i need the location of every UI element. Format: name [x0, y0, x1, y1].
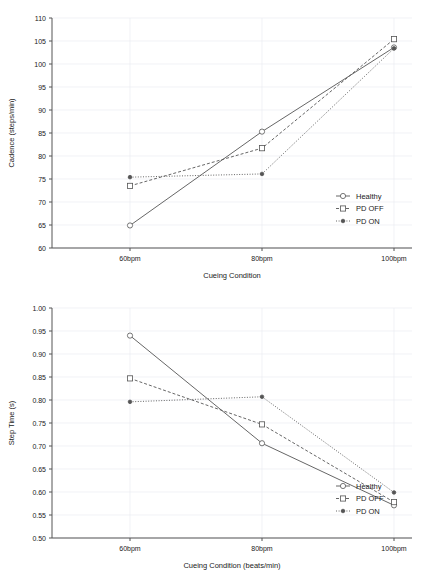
legend-label-1: PD OFF — [356, 204, 384, 213]
legend-label-2: PD ON — [356, 507, 380, 516]
data-point-filled-2 — [260, 395, 264, 399]
data-point-circle-legend-0 — [340, 193, 345, 198]
data-point-filled-2 — [128, 175, 132, 179]
x-tick-label-2: 100bpm — [381, 545, 406, 553]
data-point-circle-0 — [259, 441, 264, 446]
steptime-chart: 0.500.550.600.650.700.750.800.850.900.95… — [0, 290, 423, 580]
x-tick-label-1: 80bpm — [251, 545, 273, 553]
y-tick-label-9: 0.95 — [32, 328, 46, 335]
cadence-panel: 606570758085909510010511060bpm80bpm100bp… — [0, 0, 423, 290]
y-tick-label-4: 80 — [38, 153, 46, 160]
y-axis-title: Step Time (s) — [7, 400, 16, 445]
data-point-square-1 — [259, 422, 264, 427]
data-point-square-1 — [259, 146, 264, 151]
data-point-circle-0 — [127, 223, 132, 228]
y-tick-label-6: 0.80 — [32, 397, 46, 404]
data-point-filled-legend-2 — [341, 219, 345, 223]
data-point-square-1 — [127, 376, 132, 381]
y-tick-label-7: 0.85 — [32, 374, 46, 381]
y-tick-label-4: 0.70 — [32, 443, 46, 450]
y-tick-label-0: 0.50 — [32, 535, 46, 542]
y-tick-label-6: 90 — [38, 107, 46, 114]
data-point-filled-2 — [260, 172, 264, 176]
y-tick-label-5: 85 — [38, 130, 46, 137]
data-point-filled-legend-2 — [341, 509, 345, 513]
y-tick-label-8: 0.90 — [32, 351, 46, 358]
y-tick-label-2: 0.60 — [32, 489, 46, 496]
cadence-chart: 606570758085909510010511060bpm80bpm100bp… — [0, 0, 423, 290]
legend-label-0: Healthy — [356, 192, 382, 201]
legend-label-2: PD ON — [356, 217, 380, 226]
data-point-filled-2 — [128, 400, 132, 404]
y-tick-label-1: 0.55 — [32, 512, 46, 519]
y-tick-label-10: 110 — [35, 15, 46, 22]
figure-page: 606570758085909510010511060bpm80bpm100bp… — [0, 0, 423, 580]
data-point-circle-0 — [259, 129, 264, 134]
data-point-square-legend-1 — [340, 496, 345, 501]
data-point-square-1 — [391, 37, 396, 42]
y-tick-label-1: 65 — [38, 222, 46, 229]
legend-label-0: Healthy — [356, 482, 382, 491]
y-tick-label-5: 0.75 — [32, 420, 46, 427]
y-tick-label-3: 0.65 — [32, 466, 46, 473]
steptime-panel: 0.500.550.600.650.700.750.800.850.900.95… — [0, 290, 423, 580]
x-tick-label-1: 80bpm — [251, 255, 273, 263]
data-point-filled-2 — [392, 47, 396, 51]
x-axis-title: Cueing Condition (beats/min) — [183, 561, 281, 570]
data-point-filled-2 — [392, 491, 396, 495]
y-tick-label-8: 100 — [34, 61, 46, 68]
x-axis-title: Cueing Condition — [203, 271, 261, 280]
data-point-square-legend-1 — [340, 206, 345, 211]
legend-label-1: PD OFF — [356, 494, 384, 503]
data-point-circle-legend-0 — [340, 483, 345, 488]
data-point-circle-0 — [127, 333, 132, 338]
x-tick-label-0: 60bpm — [119, 255, 141, 263]
y-tick-label-7: 95 — [38, 84, 46, 91]
y-tick-label-2: 70 — [38, 199, 46, 206]
data-point-square-1 — [127, 183, 132, 188]
y-tick-label-9: 105 — [34, 38, 46, 45]
x-tick-label-0: 60bpm — [119, 545, 141, 553]
y-tick-label-3: 75 — [38, 176, 46, 183]
x-tick-label-2: 100bpm — [381, 255, 406, 263]
y-tick-label-0: 60 — [38, 245, 46, 252]
y-axis-title: Cadence (steps/min) — [7, 98, 16, 168]
data-point-square-1 — [391, 500, 396, 505]
y-tick-label-10: 1.00 — [32, 305, 46, 312]
